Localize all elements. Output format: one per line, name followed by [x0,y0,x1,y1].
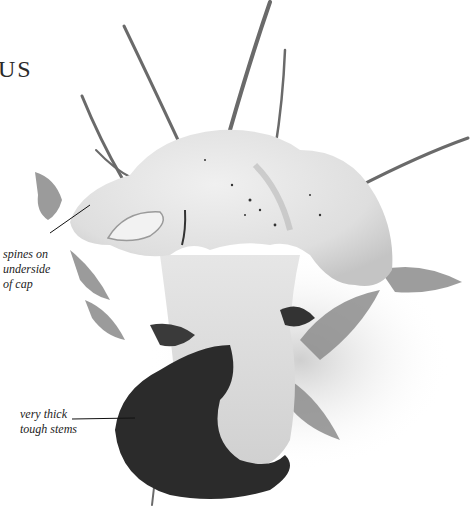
mushroom-illustration [0,0,474,521]
annotation-line: underside [3,262,63,277]
annotation-spines: spines on underside of cap [3,247,63,292]
annotation-stems: very thick tough stems [20,407,100,437]
annotation-line: of cap [3,277,63,292]
annotation-line: tough stems [20,422,100,437]
annotation-line: very thick [20,407,100,422]
annotation-line: spines on [3,247,63,262]
